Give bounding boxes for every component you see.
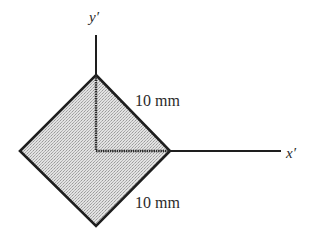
bottom-dimension-label: 10 mm [135, 194, 180, 211]
y-prime-label: y′ [87, 9, 100, 25]
diagram-canvas: y′ x′ 10 mm 10 mm [0, 0, 313, 238]
x-prime-label: x′ [285, 145, 297, 161]
top-dimension-label: 10 mm [135, 92, 180, 109]
